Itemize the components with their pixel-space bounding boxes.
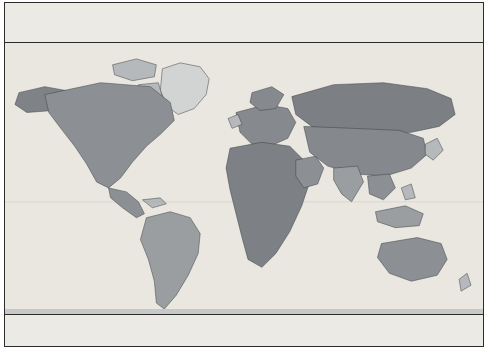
landmass-south-america bbox=[140, 212, 200, 309]
landmass-arctic-islands bbox=[113, 59, 157, 81]
landmass-new-zealand bbox=[459, 273, 471, 291]
world-time-zone-map-screenshot bbox=[0, 0, 488, 349]
map-frame bbox=[4, 2, 484, 347]
landmass-philippines bbox=[401, 184, 415, 200]
world-map-graphic bbox=[5, 43, 483, 314]
landmass-central-america bbox=[109, 188, 145, 218]
map-canvas bbox=[5, 43, 483, 314]
landmass-southeast-asia bbox=[367, 174, 395, 200]
longitude-footer-strip bbox=[5, 314, 483, 346]
landmass-europe bbox=[236, 105, 296, 147]
landmass-russia bbox=[292, 83, 455, 135]
landmass-north-america bbox=[45, 83, 174, 188]
landmass-caribbean bbox=[142, 198, 166, 208]
landmass-japan bbox=[425, 138, 443, 160]
landmass-indonesia bbox=[375, 206, 423, 228]
landmass-australia bbox=[377, 238, 447, 282]
landmass-india bbox=[334, 166, 364, 202]
timezone-header-strip bbox=[5, 3, 483, 43]
